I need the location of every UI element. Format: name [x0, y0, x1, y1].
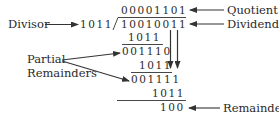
partial-remainder-2: 001111	[131, 73, 181, 85]
divisor-value: 1011	[80, 18, 113, 30]
quotient-label: Quotient	[227, 3, 278, 17]
remainder-value: 100	[160, 101, 185, 113]
long-division-diagram: 00001101 Divisor 1011 10010011 1011 0011…	[0, 0, 279, 122]
subtract-row-2: 1011	[139, 59, 172, 71]
subtract-row-1: 1011	[128, 31, 161, 43]
partial-arrow-icon-1	[62, 53, 120, 60]
partial-remainder-1: 001110	[122, 45, 172, 57]
dividend-value: 10010011	[121, 18, 187, 30]
subtract-row-3: 1011	[152, 87, 185, 99]
divisor-label: Divisor	[8, 17, 50, 31]
partial-label-line1: Partial	[27, 52, 66, 66]
dividend-label: Dividend	[227, 17, 279, 31]
remainder-label: Remainder	[223, 101, 279, 115]
quotient-value: 00001101	[121, 4, 187, 16]
division-bracket	[113, 18, 118, 31]
